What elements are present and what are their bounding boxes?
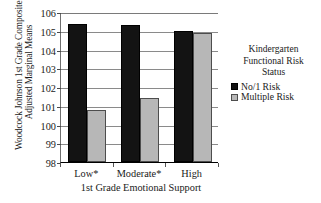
bar bbox=[87, 110, 106, 163]
bar bbox=[140, 98, 159, 162]
bar-group bbox=[114, 13, 167, 162]
y-axis-tick-labels: 9899100101102103104105106 bbox=[18, 13, 56, 163]
bar bbox=[193, 33, 212, 162]
y-axis-tick-label: 103 bbox=[18, 64, 56, 75]
legend-swatch-icon bbox=[231, 94, 238, 101]
bar-series-container bbox=[61, 13, 218, 162]
y-axis-tick-label: 104 bbox=[18, 45, 56, 56]
x-axis-tick-label: High bbox=[181, 168, 202, 179]
y-axis-tick-label: 99 bbox=[18, 139, 56, 150]
bar-chart: Woodcock Johnson 1st Grade Composites- A… bbox=[0, 0, 321, 203]
legend-swatch-icon bbox=[231, 83, 238, 90]
x-axis-tick bbox=[60, 163, 61, 167]
y-axis-tick-label: 98 bbox=[18, 158, 56, 169]
legend-title: Kindergarten Functional Risk Status bbox=[226, 44, 321, 79]
x-axis-tick bbox=[218, 163, 219, 167]
x-axis-tick-label: Moderate* bbox=[117, 168, 162, 179]
x-axis-tick bbox=[113, 163, 114, 167]
x-axis-title: 1st Grade Emotional Support bbox=[46, 182, 236, 193]
legend-title-line-3: Status bbox=[226, 67, 321, 79]
y-axis-tick-label: 101 bbox=[18, 101, 56, 112]
legend-items: No/1 RiskMultiple Risk bbox=[226, 82, 321, 102]
y-axis-tick-label: 106 bbox=[18, 8, 56, 19]
legend-item: Multiple Risk bbox=[231, 92, 321, 102]
legend-label: No/1 Risk bbox=[241, 82, 280, 92]
legend-label: Multiple Risk bbox=[241, 92, 294, 102]
plot-area bbox=[60, 13, 218, 163]
x-axis-tick-label: Low* bbox=[74, 168, 98, 179]
legend: Kindergarten Functional Risk Status No/1… bbox=[226, 44, 321, 102]
bar bbox=[174, 31, 193, 162]
bar-group bbox=[61, 13, 114, 162]
y-axis-tick-label: 105 bbox=[18, 26, 56, 37]
legend-item: No/1 Risk bbox=[231, 82, 321, 92]
bar bbox=[121, 25, 140, 162]
legend-title-line-2: Functional Risk bbox=[226, 56, 321, 68]
x-axis-tick-labels: Low*Moderate*High bbox=[52, 168, 228, 182]
bar bbox=[68, 24, 87, 162]
y-axis-tick-label: 102 bbox=[18, 83, 56, 94]
legend-title-line-1: Kindergarten bbox=[226, 44, 321, 56]
x-axis-tick bbox=[165, 163, 166, 167]
bar-group bbox=[166, 13, 219, 162]
y-axis-tick-label: 100 bbox=[18, 120, 56, 131]
